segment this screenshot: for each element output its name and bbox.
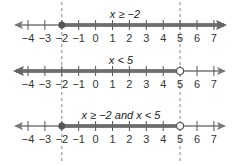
- closed-endpoint-dot: [58, 123, 65, 130]
- tick-label: 2: [126, 133, 132, 145]
- tick-label: −1: [72, 78, 85, 90]
- number-line-2: x < 5−4−3−2−101234567: [13, 54, 226, 90]
- tick-label: 6: [194, 78, 200, 90]
- open-endpoint-circle: [177, 68, 184, 75]
- tick-label: 3: [143, 32, 149, 44]
- tick-label: −2: [56, 78, 69, 90]
- tick-label: 5: [177, 78, 183, 90]
- tick-label: 7: [211, 78, 217, 90]
- tick-label: −4: [22, 133, 35, 145]
- tick-label: 7: [211, 32, 217, 44]
- inequality-label: x ≥ −2: [109, 8, 140, 20]
- tick-label: 2: [126, 78, 132, 90]
- number-line-3: x ≥ −2 and x < 5−4−3−2−101234567: [14, 109, 226, 145]
- number-line-diagram: x ≥ −2−4−3−2−101234567x < 5−4−3−2−101234…: [0, 0, 239, 166]
- open-endpoint-circle: [177, 123, 184, 130]
- tick-label: 5: [177, 133, 183, 145]
- tick-label: 0: [93, 133, 99, 145]
- inequality-label: x < 5: [108, 54, 134, 66]
- number-lines: x ≥ −2−4−3−2−101234567x < 5−4−3−2−101234…: [13, 8, 227, 145]
- tick-label: 7: [211, 133, 217, 145]
- closed-endpoint-dot: [58, 22, 65, 29]
- tick-label: −2: [56, 133, 69, 145]
- tick-label: 1: [109, 78, 115, 90]
- tick-label: 0: [93, 78, 99, 90]
- tick-label: −2: [56, 32, 69, 44]
- tick-label: 6: [194, 133, 200, 145]
- tick-label: 4: [160, 78, 166, 90]
- tick-label: 2: [126, 32, 132, 44]
- tick-label: 0: [93, 32, 99, 44]
- tick-label: −1: [72, 32, 85, 44]
- tick-label: −3: [39, 133, 52, 145]
- tick-label: −3: [39, 32, 52, 44]
- inequality-label: x ≥ −2 and x < 5: [81, 109, 162, 121]
- tick-label: 4: [160, 133, 166, 145]
- tick-label: −4: [22, 32, 35, 44]
- tick-label: 4: [160, 32, 166, 44]
- tick-label: 1: [109, 133, 115, 145]
- tick-label: 3: [143, 78, 149, 90]
- tick-label: 3: [143, 133, 149, 145]
- number-line-1: x ≥ −2−4−3−2−101234567: [14, 8, 227, 44]
- tick-label: −1: [72, 133, 85, 145]
- tick-label: −3: [39, 78, 52, 90]
- tick-label: 1: [109, 32, 115, 44]
- tick-label: 6: [194, 32, 200, 44]
- tick-label: 5: [177, 32, 183, 44]
- tick-label: −4: [22, 78, 35, 90]
